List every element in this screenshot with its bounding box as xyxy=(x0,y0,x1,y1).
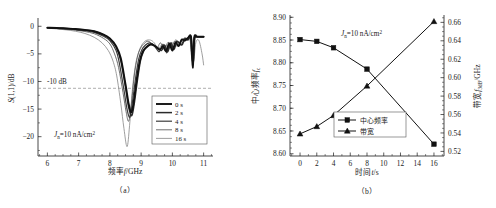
reference-line-label: -10 dB xyxy=(47,78,67,86)
x-tick-group-b: 0246810121416 xyxy=(292,153,443,169)
y-axis-title-left-b-text: 中心频率 xyxy=(250,72,260,104)
x-tick-label-a: 6 xyxy=(46,159,50,168)
y-tick-left-label-b: 8.65 xyxy=(273,127,286,136)
y-tick-left-label-b: 8.90 xyxy=(273,13,286,22)
legend-marker-square xyxy=(345,118,350,123)
y-tick-right-label-b: 0.64 xyxy=(448,36,461,45)
legend-label-8s: 8 s xyxy=(175,126,183,133)
x-tick-label-b: 10 xyxy=(380,159,388,168)
x-tick-label-b: 0 xyxy=(298,159,302,168)
x-tick-label-b: 8 xyxy=(365,159,369,168)
x-axis-title-b-text: 时间 xyxy=(355,167,371,177)
legend-panel-b[interactable]: 中心频率带宽 xyxy=(334,112,406,137)
x-tick-label-b: 6 xyxy=(348,159,352,168)
annotation-j-superscript-b: 2 xyxy=(379,29,382,35)
y-tick-left-label-b: 8.80 xyxy=(273,58,286,67)
y-tick-right-label-b: 0.58 xyxy=(448,92,461,101)
panel-b-svg: 8.608.658.708.758.808.858.90 0.520.540.5… xyxy=(248,0,496,208)
y-tick-label-a: 0 xyxy=(30,22,34,31)
x-axis-title-a-text: 频率 xyxy=(108,166,124,176)
y-tick-label-a: −20 xyxy=(22,132,34,141)
y-tick-right-label-b: 0.62 xyxy=(448,55,461,64)
x-tick-label-b: 2 xyxy=(315,159,319,168)
x-tick-label-a: 10 xyxy=(169,159,177,168)
y-tick-left-label-b: 8.85 xyxy=(273,36,286,45)
annotation-j-rest-b: =10 nA/cm xyxy=(347,30,380,38)
x-tick-label-b: 14 xyxy=(414,159,422,168)
chart-panel-b: 8.608.658.708.758.808.858.90 0.520.540.5… xyxy=(248,0,496,208)
panel-caption-b: （b） xyxy=(357,187,377,196)
legend-label-4s: 4 s xyxy=(175,118,183,125)
legend-label-带宽: 带宽 xyxy=(360,127,374,136)
y-axis-title-left-b: 中心频率fc xyxy=(250,67,261,104)
y-axis-title-right-b-text: 带宽 xyxy=(472,92,482,108)
y-axis-title-a: S(1,1)/dB xyxy=(7,73,16,102)
x-tick-label-b: 16 xyxy=(430,159,438,168)
marker-triangle-带宽 xyxy=(314,124,320,129)
annotation-current-density-b: Jn=10 nA/cm2 xyxy=(341,29,382,39)
legend-label-2s: 2 s xyxy=(175,109,183,116)
x-axis-title-a-unit: /GHz xyxy=(126,167,143,176)
chart-panel-a: 0−5−10−15−20 67891011 -10 dB Jn=10 nA/cm… xyxy=(0,0,248,208)
x-tick-label-a: 11 xyxy=(200,159,207,168)
marker-square-中心频率 xyxy=(314,39,319,44)
y-tick-right-label-b: 0.52 xyxy=(448,147,461,156)
x-tick-label-b: 4 xyxy=(332,159,336,168)
figure-root: 0−5−10−15−20 67891011 -10 dB Jn=10 nA/cm… xyxy=(0,0,496,208)
y-tick-left-label-b: 8.60 xyxy=(273,149,286,158)
legend-label-0s: 0 s xyxy=(175,101,183,108)
panel-a-svg: 0−5−10−15−20 67891011 -10 dB Jn=10 nA/cm… xyxy=(0,0,248,208)
y-axis-title-left-b-sub: c xyxy=(255,67,261,70)
marker-square-中心频率 xyxy=(432,142,437,147)
x-axis-title-b-unit: /s xyxy=(374,168,379,177)
marker-square-中心频率 xyxy=(331,45,336,50)
y-tick-left-group-b: 8.608.658.708.758.808.858.90 xyxy=(273,13,293,158)
y-tick-right-label-b: 0.60 xyxy=(448,73,461,82)
y-tick-label-a: −5 xyxy=(26,49,34,58)
y-tick-left-label-b: 8.75 xyxy=(273,81,286,90)
y-tick-right-label-b: 0.66 xyxy=(448,18,461,27)
annotation-current-density-a: Jn=10 nA/cm2 xyxy=(54,130,95,140)
y-axis-title-right-b: 带宽f3dB/GHz xyxy=(472,64,483,108)
x-axis-title-a: 频率f/GHz xyxy=(108,166,143,176)
marker-triangle-带宽 xyxy=(431,19,437,24)
legend-label-中心频率: 中心频率 xyxy=(360,116,388,125)
annotation-j-rest-a: =10 nA/cm xyxy=(60,131,93,139)
annotation-j-superscript-a: 2 xyxy=(92,130,95,136)
y-axis-title-a-unit: (1,1)/dB xyxy=(7,73,16,99)
y-tick-right-label-b: 0.56 xyxy=(448,110,461,119)
marker-square-中心频率 xyxy=(298,37,303,42)
x-tick-group-a: 67891011 xyxy=(40,153,212,169)
x-tick-label-b: 12 xyxy=(397,159,405,168)
x-tick-label-a: 7 xyxy=(77,159,81,168)
marker-square-中心频率 xyxy=(365,67,370,72)
legend-panel-a[interactable]: 0 s2 s4 s8 s16 s xyxy=(152,96,207,144)
y-tick-left-label-b: 8.70 xyxy=(273,104,286,113)
y-axis-title-right-b-unit: /GHz xyxy=(473,64,482,81)
y-tick-label-a: −10 xyxy=(22,77,34,86)
y-tick-label-a: −15 xyxy=(22,105,34,114)
panel-caption-a: （a） xyxy=(115,186,134,195)
x-axis-title-b: 时间t/s xyxy=(355,167,378,177)
y-tick-group-a: 0−5−10−15−20 xyxy=(22,22,41,151)
y-tick-right-label-b: 0.54 xyxy=(448,129,461,138)
legend-label-16s: 16 s xyxy=(175,135,187,142)
